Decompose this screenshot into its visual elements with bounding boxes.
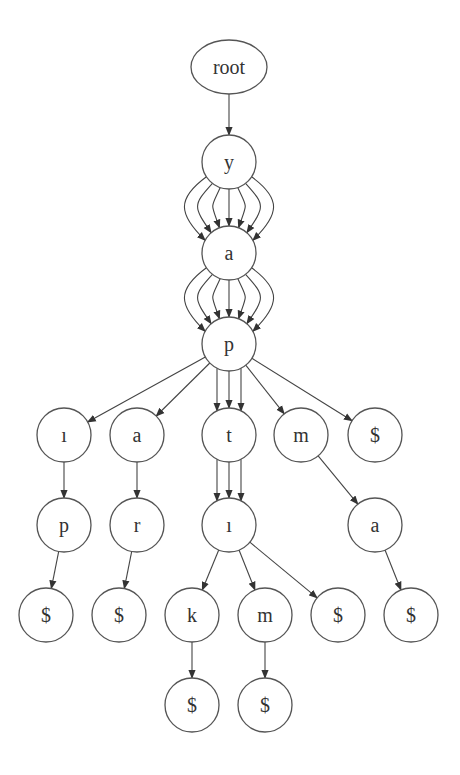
- node-p2: p: [37, 498, 91, 552]
- node-p1: p: [202, 317, 256, 371]
- edge-m1-to-a3: [318, 456, 358, 504]
- node-label: $: [260, 694, 270, 716]
- node-label: $: [114, 604, 124, 626]
- node-d3: $: [92, 588, 146, 642]
- node-label: a: [133, 424, 142, 446]
- edge-a1-to-p1: [252, 268, 274, 331]
- edge-p2-to-d2: [51, 551, 58, 588]
- node-label: m: [293, 424, 309, 446]
- edge-y-to-a1: [252, 177, 274, 240]
- trie-diagram: rootyapıatm$prıa$$km$$$$: [0, 0, 460, 775]
- node-label: $: [370, 424, 380, 446]
- root-node: root: [191, 40, 267, 94]
- node-d4: $: [311, 588, 365, 642]
- edge-a1-to-p1: [246, 274, 261, 323]
- edge-y-to-a1: [213, 188, 221, 228]
- edge-y-to-a1: [198, 183, 213, 232]
- edge-a1-to-p1: [184, 268, 206, 331]
- node-m1: m: [274, 408, 328, 462]
- node-label: a: [371, 514, 380, 536]
- edge-y-to-a1: [184, 177, 206, 240]
- edge-p1-to-a2: [156, 363, 210, 416]
- edge-a3-to-d5: [385, 550, 401, 590]
- node-label: k: [187, 604, 197, 626]
- node-label: $: [406, 604, 416, 626]
- node-label: p: [224, 333, 234, 356]
- node-d2: $: [19, 588, 73, 642]
- edge-y-to-a1: [238, 188, 246, 228]
- edge-a1-to-p1: [198, 274, 213, 323]
- edge-a1-to-p1: [213, 279, 221, 319]
- node-label: ı: [226, 514, 232, 536]
- node-i1: ı: [37, 408, 91, 462]
- node-label: root: [213, 56, 246, 78]
- node-a1: a: [202, 226, 256, 280]
- node-d1: $: [348, 408, 402, 462]
- node-label: ı: [61, 424, 67, 446]
- edge-i2-to-m2: [239, 550, 255, 590]
- node-label: $: [41, 604, 51, 626]
- node-t: t: [202, 408, 256, 462]
- node-d5: $: [384, 588, 438, 642]
- node-label: t: [226, 424, 232, 446]
- node-label: $: [187, 694, 197, 716]
- edge-i2-to-k: [202, 550, 218, 590]
- node-k: k: [165, 588, 219, 642]
- edge-r-to-d3: [124, 551, 131, 588]
- node-m2: m: [238, 588, 292, 642]
- node-y: y: [202, 135, 256, 189]
- edge-a1-to-p1: [238, 279, 246, 319]
- edge-p1-to-m1: [246, 365, 284, 414]
- node-a3: a: [348, 498, 402, 552]
- node-a2: a: [110, 408, 164, 462]
- node-i2: ı: [202, 498, 256, 552]
- node-label: m: [257, 604, 273, 626]
- node-label: y: [224, 151, 234, 174]
- node-r: r: [110, 498, 164, 552]
- node-label: $: [333, 604, 343, 626]
- node-d6: $: [165, 678, 219, 732]
- node-label: p: [59, 514, 69, 537]
- node-label: r: [134, 514, 141, 536]
- node-label: a: [225, 242, 234, 264]
- node-d7: $: [238, 678, 292, 732]
- edge-y-to-a1: [246, 183, 261, 232]
